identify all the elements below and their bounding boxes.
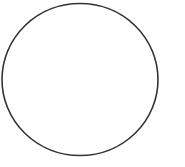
circle-outline	[2, 4, 158, 156]
diagram-canvas	[0, 0, 185, 167]
